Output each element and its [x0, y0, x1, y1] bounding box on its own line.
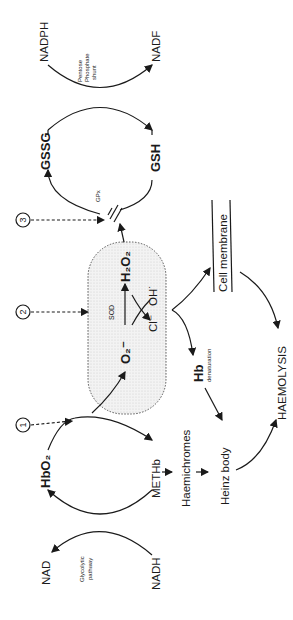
cell-compartment: H₂O₂ SOD O₂⁻ OH˙ Cl⁻ [88, 224, 166, 414]
svg-text:1: 1 [18, 422, 28, 427]
nadph-label: NADPH [38, 22, 50, 62]
haemichromes-chain: Haemichromes Heinz body [162, 429, 231, 507]
pentose-shunt-cycle: NADPH NADF Pentose Phosphate shunt [38, 22, 162, 130]
nad-label: NAD [40, 561, 52, 585]
h2o2-label: H₂O₂ [118, 251, 133, 282]
cl-label: Cl⁻ [147, 315, 159, 332]
cell-membrane: Cell membrane [212, 200, 278, 328]
marker-2: 2 [16, 305, 88, 319]
oh-radical-label: OH˙ [147, 285, 159, 306]
glycolytic-cycle: NAD NADH Glycolytic pathway [40, 490, 162, 590]
nadp-label: NADF [150, 31, 162, 62]
o2-radical-label: O₂⁻ [118, 341, 133, 364]
svg-text:3: 3 [18, 217, 28, 222]
gsh-label: GSH [148, 144, 163, 172]
haemichromes-label: Haemichromes [180, 429, 192, 507]
heinz-body-label: Heinz body [219, 447, 231, 505]
methb-label: METHb [150, 459, 162, 498]
glycolytic-label-1: Glycolytic [79, 556, 85, 582]
gpx-label: GPx [95, 190, 101, 202]
marker-3: 3 [16, 213, 104, 227]
haemolysis-label: HAEMOLYSIS [276, 346, 288, 420]
hb-denaturation-label: denaturation [206, 349, 212, 382]
gssg-label: GSSG [38, 132, 53, 170]
cell-membrane-label: Cell membrane [217, 214, 229, 292]
marker-1: 1 [16, 418, 72, 432]
sod-label: SOD [108, 305, 115, 320]
pentose-shunt-label-3: shunt [91, 65, 97, 80]
pentose-shunt-label-2: Phosphate [84, 53, 90, 82]
glycolytic-label-2: pathway [87, 558, 93, 580]
glutathione-cycle: GSSG GSH GPx [38, 130, 163, 222]
nadh-label: NADH [150, 557, 162, 590]
hb-label: Hb [191, 365, 206, 382]
hbo2-label: HbO₂ [38, 455, 53, 488]
oxidative-stress-diagram: NADPH NADF Pentose Phosphate shunt GSSG … [0, 0, 293, 620]
svg-text:2: 2 [18, 309, 28, 314]
pentose-shunt-label-1: Pentose [77, 59, 83, 82]
